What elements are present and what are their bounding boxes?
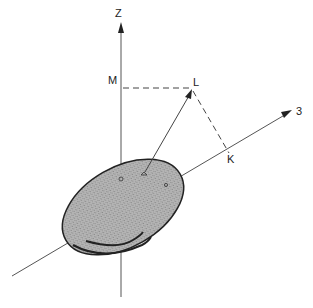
vector-to-l bbox=[145, 94, 190, 172]
label-l: L bbox=[193, 76, 199, 88]
label-k: K bbox=[227, 153, 235, 165]
vector-to-l-arrowhead bbox=[185, 89, 192, 99]
z-axis-arrowhead bbox=[118, 22, 124, 33]
label-z: Z bbox=[115, 7, 122, 19]
label-m: M bbox=[108, 74, 117, 86]
coordinate-diagram: Z 3 M L K bbox=[0, 0, 313, 308]
label-axis-3: 3 bbox=[296, 105, 302, 117]
dashed-l-k bbox=[193, 91, 229, 153]
axis-3-arrowhead bbox=[281, 110, 292, 118]
ellipsoid-body bbox=[46, 139, 200, 274]
